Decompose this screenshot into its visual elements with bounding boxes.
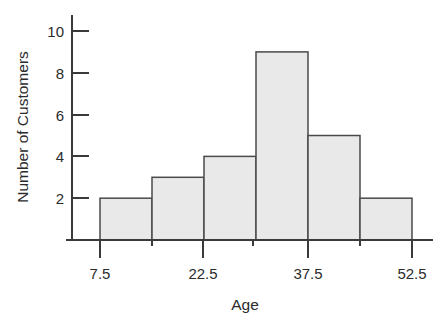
histogram-bar: [256, 52, 308, 240]
x-tick-label-22.5: 22.5: [188, 265, 217, 282]
y-tick-label-2: 2: [56, 190, 64, 207]
histogram-figure: 10 8 6 4 2 7.5 22.5 37.5 52.5 Age Number…: [0, 0, 445, 330]
histogram-bar: [360, 198, 412, 240]
y-axis-title: Number of Customers: [14, 51, 31, 203]
y-tick-label-8: 8: [56, 65, 64, 82]
histogram-bar: [308, 136, 360, 241]
x-axis-title: Age: [231, 296, 259, 313]
x-ticks-group: [100, 240, 412, 258]
x-tick-label-37.5: 37.5: [293, 265, 322, 282]
x-tick-label-52.5: 52.5: [397, 265, 426, 282]
y-tick-label-10: 10: [47, 23, 64, 40]
histogram-plot: 10 8 6 4 2 7.5 22.5 37.5 52.5 Age Number…: [0, 0, 445, 330]
x-tick-label-7.5: 7.5: [90, 265, 111, 282]
histogram-bar: [100, 198, 152, 240]
bars-group: [100, 52, 412, 240]
histogram-bar: [204, 156, 256, 240]
y-tick-label-6: 6: [56, 107, 64, 124]
y-ticks-group: [72, 31, 89, 198]
histogram-bar: [152, 177, 204, 240]
y-tick-label-4: 4: [56, 148, 64, 165]
